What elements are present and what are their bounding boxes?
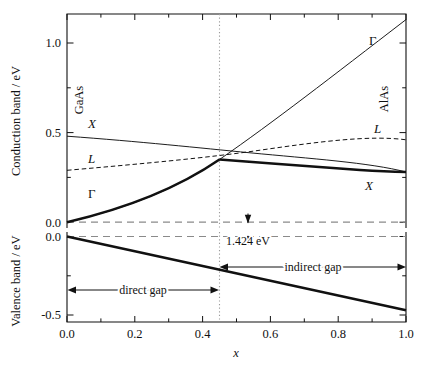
conduction-panel: 0.0 0.5 1.0 X L Γ Γ L X GaAs AlAs Conduc…	[9, 14, 406, 230]
conduction-y-ticks	[67, 14, 406, 222]
l-band-label-left: L	[87, 151, 95, 166]
indirect-gap-label: indirect gap	[285, 260, 342, 274]
valence-band-axis-title: Valence band / eV	[9, 235, 23, 326]
valence-panel: 0.0 -0.5 Valence band / eV	[9, 230, 406, 327]
conduction-ytick-0: 0.0	[45, 216, 61, 230]
conduction-panel-frame	[67, 14, 406, 228]
x-axis-title: x	[232, 346, 239, 360]
xtick-4: 0.8	[330, 327, 346, 341]
x-band-label-left: X	[87, 116, 97, 131]
x-axis-tick-labels: 0.0 0.2 0.4 0.6 0.8 1.0	[59, 327, 414, 341]
band-structure-figure: 0.0 0.5 1.0 X L Γ Γ L X GaAs AlAs Conduc…	[0, 0, 425, 376]
gamma-band-curve	[67, 20, 406, 223]
conduction-ytick-2: 1.0	[45, 36, 61, 50]
bandgap-value-label: 1.424 eV	[226, 234, 270, 248]
xtick-5: 1.0	[398, 327, 414, 341]
x-band-curve	[67, 136, 406, 172]
conduction-band-axis-title: Conduction band / eV	[9, 66, 23, 176]
alas-endmember-label: AlAs	[377, 86, 391, 113]
xtick-3: 0.6	[263, 327, 279, 341]
l-band-label-right: L	[373, 121, 381, 136]
xtick-1: 0.2	[127, 327, 143, 341]
bandgap-annotation: 1.424 eV	[226, 214, 270, 249]
valence-ytick-1: -0.5	[41, 308, 61, 322]
gamma-band-label-right: Γ	[369, 33, 377, 48]
gaas-endmember-label: GaAs	[72, 86, 86, 115]
conduction-ytick-1: 0.5	[45, 126, 61, 140]
valence-y-ticks	[67, 237, 406, 323]
direct-gap-annotation: direct gap	[68, 283, 220, 297]
lowest-conduction-band-envelope-x	[220, 160, 407, 173]
indirect-gap-annotation: indirect gap	[220, 260, 407, 274]
gamma-band-label-left: Γ	[88, 186, 96, 201]
valence-ytick-0: 0.0	[45, 230, 61, 244]
xtick-2: 0.4	[195, 327, 211, 341]
x-band-label-right: X	[364, 178, 374, 193]
l-band-curve	[67, 138, 406, 170]
direct-gap-label: direct gap	[119, 283, 167, 297]
xtick-0: 0.0	[59, 327, 75, 341]
